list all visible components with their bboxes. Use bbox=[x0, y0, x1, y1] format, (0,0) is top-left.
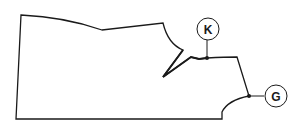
pattern-diagram: K G bbox=[0, 0, 303, 126]
marker-k-label: K bbox=[204, 23, 213, 37]
dart bbox=[163, 50, 207, 77]
marker-g-label: G bbox=[271, 90, 280, 104]
